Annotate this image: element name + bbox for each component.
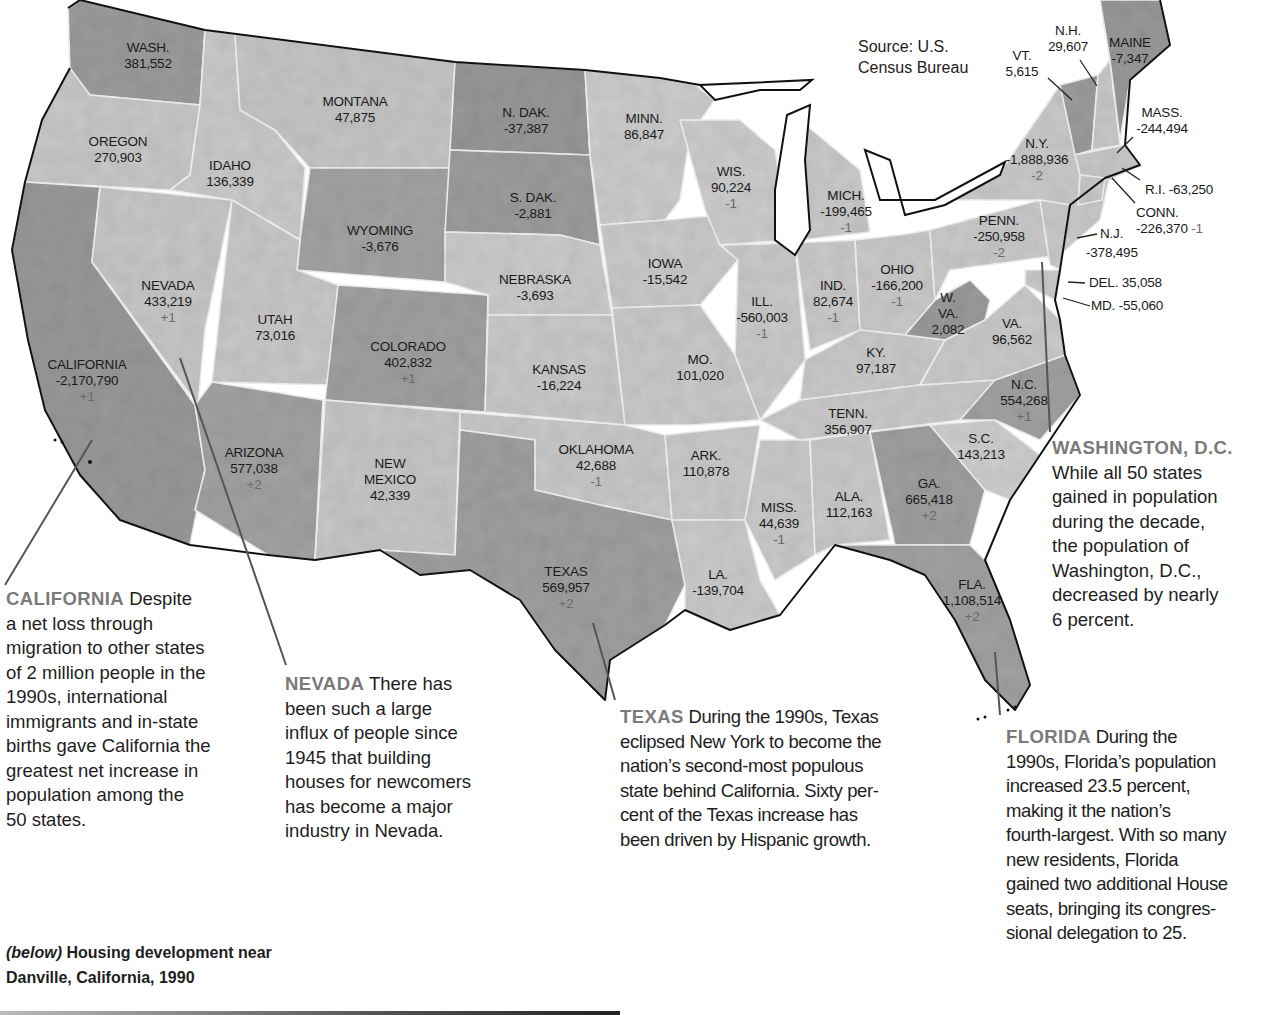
label-connecticut: CONN.-226,370 -1	[1136, 205, 1203, 237]
callout-nevada: NEVADA There has been such a large influ…	[285, 672, 525, 844]
label-new-hampshire: N.H.29,607	[1048, 23, 1088, 55]
lake-superior	[700, 80, 812, 100]
lakes-huron-erie	[865, 150, 1005, 215]
label-oregon: OREGON270,903	[89, 134, 148, 166]
photo-caption: (below) Housing development near Danvill…	[6, 940, 272, 990]
leader-del	[1068, 282, 1085, 283]
label-alabama: ALA.112,163	[826, 489, 872, 521]
label-nebraska: NEBRASKA-3,693	[499, 272, 571, 304]
label-illinois: ILL.-560,003-1	[736, 294, 788, 342]
state-connecticut	[1078, 175, 1105, 205]
label-new-jersey: N.J.	[1100, 226, 1123, 242]
label-oklahoma: OKLAHOMA42,688-1	[559, 442, 634, 490]
label-arkansas: ARK.110,878	[683, 448, 729, 480]
label-mississippi: MISS.44,639-1	[759, 500, 799, 548]
label-ohio: OHIO-166,200-1	[871, 262, 923, 310]
callout-california: CALIFORNIA Despite a net loss through mi…	[6, 587, 266, 832]
label-massachusetts: MASS.-244,494	[1136, 105, 1188, 137]
label-colorado: COLORADO402,832+1	[370, 339, 446, 387]
label-indiana: IND.82,674-1	[813, 278, 853, 326]
leader-md	[1063, 298, 1090, 306]
label-montana: MONTANA47,875	[322, 94, 387, 126]
label-arizona: ARIZONA577,038+2	[225, 445, 284, 493]
label-vermont: VT.5,615	[1006, 48, 1039, 80]
label-south-dakota: S. DAK.-2,881	[510, 190, 557, 222]
label-pennsylvania: PENN.-250,958-2	[973, 213, 1025, 261]
label-kansas: KANSAS-16,224	[532, 362, 586, 394]
label-wisconsin: WIS.90,224-1	[711, 164, 751, 212]
label-new-york: N.Y.-1,888,936-2	[1006, 136, 1069, 184]
leader-conn	[1112, 178, 1135, 203]
lake-michigan	[775, 105, 810, 255]
leader-california	[5, 440, 92, 585]
label-missouri: MO.101,020	[676, 352, 723, 384]
label-minnesota: MINN.86,847	[624, 111, 664, 143]
label-california: CALIFORNIA-2,170,790+1	[47, 357, 126, 405]
label-michigan: MICH.-199,465-1	[820, 188, 872, 236]
label-louisiana: LA.-139,704	[692, 567, 744, 599]
label-tennessee: TENN.356,907	[824, 406, 871, 438]
label-north-dakota: N. DAK.-37,387	[502, 105, 549, 137]
callout-washington-dc: WASHINGTON, D.C. While all 50 states gai…	[1052, 436, 1279, 632]
label-nevada: NEVADA433,219+1	[141, 278, 194, 326]
label-texas: TEXAS569,957+2	[542, 564, 589, 612]
label-florida: FLA.1,108,514+2	[943, 577, 1001, 625]
label-south-carolina: S.C.143,213	[957, 431, 1004, 463]
photo-edge	[0, 1011, 620, 1015]
callout-florida: FLORIDA During the 1990s, Florida’s popu…	[1006, 725, 1279, 946]
callout-texas: TEXAS During the 1990s, Texas eclipsed N…	[620, 705, 970, 852]
label-maine: MAINE-7,347	[1109, 35, 1151, 67]
label-new-jersey-value: -378,495	[1086, 245, 1138, 261]
label-delaware: DEL. 35,058	[1089, 275, 1162, 291]
label-west-virginia: W.VA.2,082	[932, 290, 965, 338]
label-iowa: IOWA-15,542	[643, 256, 687, 288]
label-georgia: GA.665,418+2	[905, 476, 952, 524]
label-rhode-island: R.I. -63,250	[1145, 182, 1213, 198]
label-idaho: IDAHO136,339	[206, 158, 253, 190]
source-note: Source: U.S. Census Bureau	[858, 36, 968, 78]
label-virginia: VA.96,562	[992, 316, 1032, 348]
label-wyoming: WYOMING-3,676	[347, 223, 413, 255]
state-florida	[835, 545, 1030, 710]
label-utah: UTAH73,016	[255, 312, 295, 344]
label-washington: WASH.381,552	[124, 40, 171, 72]
label-maryland: MD. -55,060	[1091, 298, 1163, 314]
label-new-mexico: NEWMEXICO42,339	[364, 456, 416, 504]
label-kentucky: KY.97,187	[856, 345, 896, 377]
label-north-carolina: N.C.554,268+1	[1000, 377, 1047, 425]
